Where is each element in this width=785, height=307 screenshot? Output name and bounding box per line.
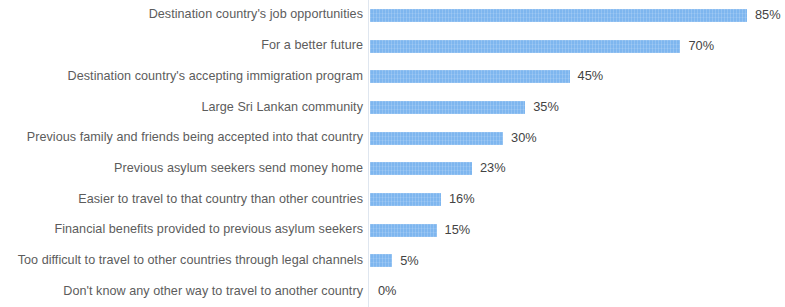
plot-area: 23%	[368, 154, 785, 185]
bar[interactable]	[370, 193, 441, 206]
category-label: Too difficult to travel to other countri…	[0, 254, 368, 268]
bar[interactable]	[370, 70, 570, 83]
bar-container: 15%	[368, 215, 785, 246]
bar-container: 5%	[368, 246, 785, 277]
category-label: Destination country's accepting immigrat…	[0, 70, 368, 84]
category-label: Previous asylum seekers send money home	[0, 162, 368, 176]
category-label: Easier to travel to that country than ot…	[0, 193, 368, 207]
bar-container: 85%	[368, 0, 785, 31]
category-axis-line	[368, 92, 369, 123]
table-row: Large Sri Lankan community 35%	[0, 92, 785, 123]
plot-area: 16%	[368, 184, 785, 215]
category-axis-line	[368, 276, 369, 307]
bar-container: 0%	[368, 276, 785, 307]
bar-container: 70%	[368, 31, 785, 62]
plot-area: 30%	[368, 123, 785, 154]
bar[interactable]	[370, 162, 472, 175]
plot-area: 45%	[368, 61, 785, 92]
table-row: Don't know any other way to travel to an…	[0, 276, 785, 307]
bar[interactable]	[370, 254, 392, 267]
bar[interactable]	[370, 132, 503, 145]
bar[interactable]	[370, 101, 525, 114]
table-row: Financial benefits provided to previous …	[0, 215, 785, 246]
category-axis-line	[368, 246, 369, 277]
bar-value-label: 0%	[378, 285, 397, 298]
category-label: Large Sri Lankan community	[0, 101, 368, 115]
table-row: Too difficult to travel to other countri…	[0, 246, 785, 277]
bar-value-label: 45%	[578, 70, 604, 83]
horizontal-bar-chart: Destination country's job opportunities …	[0, 0, 785, 307]
category-label: Don't know any other way to travel to an…	[0, 285, 368, 299]
category-axis-line	[368, 31, 369, 62]
bar-value-label: 15%	[445, 224, 471, 237]
bar-container: 35%	[368, 92, 785, 123]
bar-container: 30%	[368, 123, 785, 154]
bar-container: 45%	[368, 61, 785, 92]
category-label: Previous family and friends being accept…	[0, 131, 368, 145]
bar-value-label: 35%	[533, 101, 559, 114]
bar-value-label: 5%	[400, 255, 419, 268]
category-label: Destination country's job opportunities	[0, 8, 368, 22]
bar[interactable]	[370, 40, 680, 53]
table-row: Previous asylum seekers send money home …	[0, 154, 785, 185]
table-row: Easier to travel to that country than ot…	[0, 184, 785, 215]
table-row: For a better future 70%	[0, 31, 785, 62]
category-axis-line	[368, 0, 369, 31]
table-row: Previous family and friends being accept…	[0, 123, 785, 154]
bar-container: 23%	[368, 154, 785, 185]
plot-area: 15%	[368, 215, 785, 246]
bar-value-label: 30%	[511, 132, 537, 145]
bar-value-label: 85%	[755, 9, 781, 22]
category-axis-line	[368, 61, 369, 92]
bar-value-label: 70%	[688, 40, 714, 53]
bar-rows: Destination country's job opportunities …	[0, 0, 785, 307]
category-axis-line	[368, 184, 369, 215]
category-axis-line	[368, 123, 369, 154]
bar[interactable]	[370, 9, 747, 22]
category-label: Financial benefits provided to previous …	[0, 223, 368, 237]
table-row: Destination country's accepting immigrat…	[0, 61, 785, 92]
table-row: Destination country's job opportunities …	[0, 0, 785, 31]
bar-value-label: 16%	[449, 193, 475, 206]
bar-container: 16%	[368, 184, 785, 215]
bar-value-label: 23%	[480, 162, 506, 175]
plot-area: 85%	[368, 0, 785, 31]
plot-area: 35%	[368, 92, 785, 123]
category-axis-line	[368, 215, 369, 246]
plot-area: 70%	[368, 31, 785, 62]
category-axis-line	[368, 154, 369, 185]
plot-area: 0%	[368, 276, 785, 307]
bar[interactable]	[370, 224, 437, 237]
category-label: For a better future	[0, 39, 368, 53]
plot-area: 5%	[368, 246, 785, 277]
